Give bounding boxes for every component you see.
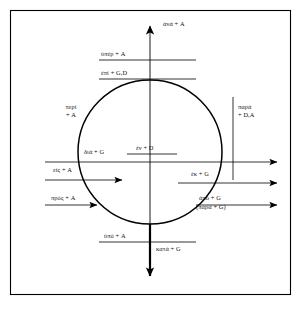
label-eis: εἰς + A: [53, 166, 72, 174]
label-ana: ἀνά + A: [163, 20, 185, 28]
label-para-da-line1: παρά: [238, 103, 252, 110]
label-para-paren: (παρά + G): [196, 203, 226, 211]
label-dia: διά + G: [84, 148, 104, 156]
preposition-diagram: [0, 0, 301, 309]
label-hyper: ὑπέρ + A: [101, 50, 125, 58]
label-kata: κατά + G: [156, 245, 181, 253]
label-apo: ἀπό + G: [199, 194, 221, 202]
label-pros: πρός + A: [51, 194, 75, 202]
label-para-da-line2: + D,A: [238, 111, 255, 118]
label-ek: ἐκ + G: [191, 170, 209, 178]
label-en: ἐν + D: [136, 144, 154, 152]
label-epi: ἐπί + G,D: [101, 69, 127, 77]
figure-root: ἀνά + A ὑπέρ + A ἐπί + G,D περί + A παρά…: [0, 0, 301, 309]
label-peri: περί + A: [58, 103, 84, 118]
label-para-da: παρά + D,A: [238, 103, 278, 118]
label-peri-line2: + A: [66, 111, 76, 118]
label-hypo: ὑπό + A: [104, 232, 126, 240]
label-peri-line1: περί: [65, 103, 76, 110]
